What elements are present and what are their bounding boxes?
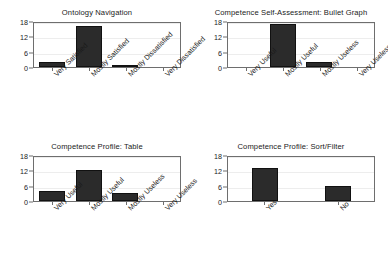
y-axis: 061218 (4, 156, 33, 202)
x-tick-label: Very Satisfied (52, 72, 58, 78)
x-tick-label: Mostly Useful (283, 72, 289, 78)
y-tick-label: 12 (20, 167, 28, 176)
x-tick-label: Very Useless (163, 206, 169, 212)
chart-title: Competence Self-Assessment: Bullet Graph (198, 8, 384, 17)
chart-panel-competence-self-assessment: Competence Self-Assessment: Bullet Graph… (198, 4, 384, 126)
x-axis: Very SatisfiedMostly SatisfiedMostly Dis… (33, 68, 181, 124)
x-axis: Very UsefulMostly UsefulMostly UselessVe… (33, 202, 181, 258)
y-tick-label: 0 (218, 198, 222, 207)
x-tick-label: No (338, 206, 344, 212)
chart-panel-ontology-navigation: Ontology Navigation061218Very SatisfiedM… (4, 4, 190, 126)
y-tick-label: 6 (24, 182, 28, 191)
x-tick-label: Mostly Dissatisfied (126, 72, 132, 78)
x-tick-label: Mostly Satisfied (89, 72, 95, 78)
y-tick-label: 6 (24, 48, 28, 57)
x-tick-label: Yes (264, 206, 270, 212)
bar (252, 168, 278, 201)
x-axis: YesNo (227, 202, 375, 258)
y-tick-label: 6 (218, 182, 222, 191)
y-tick-label: 18 (20, 18, 28, 27)
chart-panel-competence-profile-table: Competence Profile: Table061218Very Usef… (4, 138, 190, 260)
x-tick-label: Very Dissatisfied (163, 72, 169, 78)
x-tick-label: Very Useless (357, 72, 363, 78)
x-tick-label: Mostly Useless (126, 206, 132, 212)
y-tick-label: 0 (218, 64, 222, 73)
y-tick-label: 18 (214, 18, 222, 27)
y-axis: 061218 (198, 156, 227, 202)
y-tick-label: 18 (214, 152, 222, 161)
y-tick-label: 18 (20, 152, 28, 161)
plot-area (227, 156, 375, 202)
y-tick-label: 12 (214, 33, 222, 42)
bar-series (228, 157, 374, 201)
y-axis: 061218 (198, 22, 227, 68)
x-tick-label: Very Useful (246, 72, 252, 78)
chart-title: Competence Profile: Table (4, 142, 190, 151)
chart-panel-competence-profile-sort-filter: Competence Profile: Sort/Filter061218Yes… (198, 138, 384, 260)
y-tick-label: 0 (24, 198, 28, 207)
bar-slot (301, 157, 374, 201)
y-tick-label: 12 (20, 33, 28, 42)
y-tick-label: 0 (24, 64, 28, 73)
chart-title: Ontology Navigation (4, 8, 190, 17)
y-tick-label: 12 (214, 167, 222, 176)
y-axis: 061218 (4, 22, 33, 68)
x-tick-label: Very Useful (52, 206, 58, 212)
x-tick-label: Mostly Useless (320, 72, 326, 78)
x-axis: Very UsefulMostly UsefulMostly UselessVe… (227, 68, 375, 124)
bar-slot (228, 157, 301, 201)
figure-grid: Ontology Navigation061218Very SatisfiedM… (0, 0, 388, 265)
bar (325, 186, 351, 201)
y-tick-label: 6 (218, 48, 222, 57)
bar (270, 24, 296, 67)
chart-title: Competence Profile: Sort/Filter (198, 142, 384, 151)
x-tick-label: Mostly Useful (89, 206, 95, 212)
